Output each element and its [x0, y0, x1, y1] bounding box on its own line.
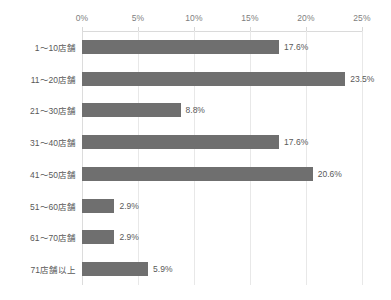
bar-row: 23.5% [82, 72, 362, 86]
bar-data-label: 17.6% [279, 42, 308, 52]
x-axis-tick-label: 15% [241, 13, 259, 23]
plot-area: 17.6%23.5%8.8%17.6%20.6%2.9%2.9%5.9% [82, 31, 362, 285]
x-axis-tick-mark [194, 27, 195, 31]
bar-data-label: 8.8% [181, 105, 205, 115]
y-axis-category-label: 31〜40店舗 [10, 136, 82, 148]
bar[interactable] [82, 167, 313, 181]
x-axis-tick-mark [82, 27, 83, 31]
x-axis-tick-mark [306, 27, 307, 31]
x-axis-tick-label: 0% [76, 13, 89, 23]
bar-row: 20.6% [82, 167, 362, 181]
bar-data-label: 20.6% [313, 169, 342, 179]
gridline [306, 31, 307, 285]
bar-data-label: 2.9% [114, 201, 138, 211]
bar[interactable] [82, 40, 279, 54]
y-axis-category-label: 61〜70店舗 [10, 231, 82, 243]
gridline [362, 31, 363, 285]
x-axis-tick-mark [138, 27, 139, 31]
y-axis-category-label: 11〜20店舗 [10, 73, 82, 85]
bar-data-label: 17.6% [279, 137, 308, 147]
gridline [250, 31, 251, 285]
x-axis-tick-label: 25% [353, 13, 371, 23]
x-axis-tick-label: 20% [297, 13, 315, 23]
bar[interactable] [82, 103, 181, 117]
y-axis-category-labels: 1〜10店舗11〜20店舗21〜30店舗31〜40店舗41〜50店舗51〜60店… [0, 31, 82, 285]
y-axis-category-label: 21〜30店舗 [10, 104, 82, 116]
gridline [194, 31, 195, 285]
x-axis-tick-mark [362, 27, 363, 31]
y-axis-category-label: 1〜10店舗 [10, 41, 82, 53]
bar[interactable] [82, 262, 148, 276]
axis-baseline [82, 31, 83, 285]
bar-row: 2.9% [82, 230, 362, 244]
gridline [138, 31, 139, 285]
y-axis-category-label: 51〜60店舗 [10, 200, 82, 212]
x-axis-tick-mark [250, 27, 251, 31]
bar-row: 8.8% [82, 103, 362, 117]
bar-row: 17.6% [82, 40, 362, 54]
bar[interactable] [82, 199, 114, 213]
bar-data-label: 2.9% [114, 232, 138, 242]
bar-data-label: 5.9% [148, 264, 172, 274]
x-axis-tick-label: 10% [185, 13, 203, 23]
bar[interactable] [82, 135, 279, 149]
bar[interactable] [82, 72, 345, 86]
y-axis-category-label: 71店舗以上 [10, 263, 82, 275]
x-axis-tick-label: 5% [132, 13, 145, 23]
bar-row: 2.9% [82, 199, 362, 213]
bar-data-label: 23.5% [345, 74, 374, 84]
y-axis-category-label: 41〜50店舗 [10, 168, 82, 180]
bar-row: 17.6% [82, 135, 362, 149]
bar[interactable] [82, 230, 114, 244]
bar-row: 5.9% [82, 262, 362, 276]
bar-chart: 0%5%10%15%20%25% 1〜10店舗11〜20店舗21〜30店舗31〜… [0, 0, 391, 300]
